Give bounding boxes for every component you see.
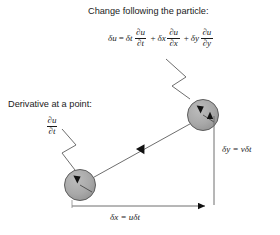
- label-delta-y: δy = vδt: [222, 145, 251, 155]
- equation-lhs: δu: [108, 33, 117, 43]
- equation-change-following-particle: δu = δt ∂u ∂t + δx ∂u ∂x + δy ∂u ∂y: [108, 28, 215, 49]
- term-coefficient-dt: δt: [126, 33, 133, 43]
- label-delta-x: δx = uδt: [110, 213, 140, 223]
- equation-plus-2: +: [184, 33, 189, 43]
- equation-term-y: δy ∂u ∂y: [191, 28, 215, 49]
- term-coefficient-dy: δy: [191, 33, 199, 43]
- equation-partial-derivative: ∂u ∂t: [44, 116, 60, 137]
- fraction-numerator: ∂u: [167, 28, 180, 38]
- fraction-numerator: ∂u: [134, 28, 147, 38]
- equation-term-x: δx ∂u ∂x: [157, 28, 181, 49]
- start-particle: [65, 170, 96, 201]
- equation-equals: =: [119, 33, 124, 43]
- equation-plus-1: +: [150, 33, 155, 43]
- partial-u-partial-t: ∂u ∂t: [134, 28, 147, 49]
- fraction-denominator: ∂y: [201, 38, 213, 49]
- fraction-denominator: ∂t: [135, 38, 146, 49]
- partial-u-partial-y: ∂u ∂y: [200, 28, 213, 49]
- equation-term-t: δt ∂u ∂t: [126, 28, 149, 49]
- partial-u-partial-t-standalone: ∂u ∂t: [46, 116, 59, 137]
- caption-derivative-at-a-point: Derivative at a point:: [8, 99, 92, 109]
- fraction-denominator: ∂t: [47, 126, 58, 137]
- fraction-numerator: ∂u: [46, 116, 59, 126]
- term-coefficient-dx: δx: [157, 33, 165, 43]
- leader-line-derivative: [62, 129, 76, 170]
- leader-line-equation: [166, 59, 190, 99]
- fraction-denominator: ∂x: [167, 38, 179, 49]
- diagram-canvas: Change following the particle: Derivativ…: [0, 0, 280, 235]
- fraction-numerator: ∂u: [200, 28, 213, 38]
- partial-u-partial-x: ∂u ∂x: [167, 28, 180, 49]
- displacement-arrowhead: [136, 144, 149, 156]
- caption-change-following-particle: Change following the particle:: [88, 6, 209, 16]
